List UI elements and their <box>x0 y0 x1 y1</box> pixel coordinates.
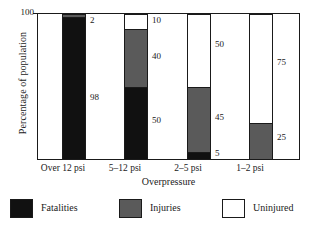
bar-stack[interactable] <box>187 14 211 159</box>
legend-label-uninjured: Uninjured <box>253 203 294 213</box>
bar-segment-uninjured[interactable] <box>125 14 147 29</box>
legend-swatch-injuries <box>119 199 142 218</box>
bar-segment-fatalities[interactable] <box>125 87 147 160</box>
bar-segment-injuries[interactable] <box>125 29 147 87</box>
bar-stack[interactable] <box>62 14 86 159</box>
chart-legend: Fatalities Injuries Uninjured <box>0 196 314 224</box>
legend-item-fatalities[interactable]: Fatalities <box>10 196 78 220</box>
value-label-injuries: 2 <box>90 16 95 25</box>
bar-group-2-5-psi: 50 45 5 <box>187 14 211 159</box>
stacked-bar-chart: Percentage of population 100 2 98 <box>0 0 314 229</box>
value-label-injuries: 45 <box>215 113 224 122</box>
bar-group-1-2-psi: 75 25 <box>249 14 273 159</box>
bar-segment-uninjured[interactable] <box>250 14 272 123</box>
value-label-injuries: 25 <box>277 133 286 142</box>
legend-label-fatalities: Fatalities <box>41 203 78 213</box>
value-label-injuries: 40 <box>152 52 161 61</box>
plot-frame: 2 98 10 40 50 <box>37 13 300 160</box>
value-label-fatalities: 50 <box>152 116 161 125</box>
bar-segment-injuries[interactable] <box>188 87 210 152</box>
bar-segment-fatalities[interactable] <box>63 17 85 159</box>
bar-stack[interactable] <box>124 14 148 159</box>
x-axis-title: Overpressure <box>37 177 300 187</box>
bar-group-over-12-psi: 2 98 <box>62 14 86 159</box>
value-label-uninjured: 10 <box>152 16 161 25</box>
plot-area: 2 98 10 40 50 <box>38 14 299 159</box>
legend-item-injuries[interactable]: Injuries <box>119 196 181 220</box>
x-axis-tick-label-1-2-psi: 1–2 psi <box>211 163 289 173</box>
legend-swatch-uninjured <box>222 199 245 218</box>
value-label-uninjured: 75 <box>277 58 286 67</box>
legend-label-injuries: Injuries <box>150 203 181 213</box>
value-label-fatalities: 98 <box>90 93 99 102</box>
y-axis-title: Percentage of population <box>18 8 28 158</box>
value-label-uninjured: 50 <box>215 40 224 49</box>
value-label-fatalities: 5 <box>215 149 220 158</box>
bar-stack[interactable] <box>249 14 273 159</box>
legend-swatch-fatalities <box>10 199 33 218</box>
bar-segment-fatalities[interactable] <box>188 152 210 159</box>
bar-segment-uninjured[interactable] <box>188 14 210 87</box>
legend-item-uninjured[interactable]: Uninjured <box>222 196 294 220</box>
bar-group-5-12-psi: 10 40 50 <box>124 14 148 159</box>
y-axis-tick-label-100: 100 <box>18 8 34 17</box>
bar-segment-injuries[interactable] <box>250 123 272 159</box>
